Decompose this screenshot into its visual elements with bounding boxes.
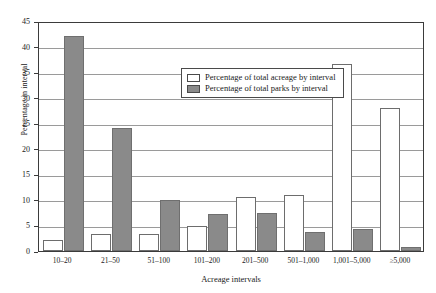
bar-acreage-2 <box>139 234 159 251</box>
legend-label-parks: Percentage of total parks by interval <box>205 84 328 93</box>
x-tick-label: 101–200 <box>183 256 231 265</box>
bar-parks-3 <box>208 214 228 251</box>
legend-label-acreage: Percentage of total acreage by interval <box>205 73 336 82</box>
bar-parks-6 <box>353 229 373 251</box>
bar-acreage-4 <box>236 197 256 251</box>
x-axis-title: Acreage intervals <box>38 274 424 284</box>
y-tick-label: 35 <box>0 69 30 77</box>
y-tick-label: 45 <box>0 18 30 26</box>
y-tick-label: 5 <box>0 222 30 230</box>
legend-item-parks: Percentage of total parks by interval <box>187 83 336 94</box>
y-tick-mark <box>34 252 38 253</box>
x-tick-label: 10–20 <box>38 256 86 265</box>
y-tick-label: 15 <box>0 171 30 179</box>
y-tick-mark <box>34 73 38 74</box>
y-tick-mark <box>34 149 38 150</box>
x-tick-label: 201–500 <box>231 256 279 265</box>
plot-area: Percentage of total acreage by interval … <box>38 22 424 252</box>
y-tick-mark <box>34 98 38 99</box>
x-tick-label: 21–50 <box>86 256 134 265</box>
x-tick-label: ≥5,000 <box>376 256 424 265</box>
x-tick-label: 501–1,000 <box>279 256 327 265</box>
x-axis-tick-labels: 10–2021–5051–100101–200201–500501–1,0001… <box>38 256 424 268</box>
y-tick-label: 20 <box>0 146 30 154</box>
y-tick-label: 0 <box>0 248 30 256</box>
bar-parks-1 <box>112 128 132 251</box>
y-tick-label: 30 <box>0 95 30 103</box>
bar-parks-2 <box>160 200 180 251</box>
bar-parks-0 <box>64 36 84 251</box>
bar-parks-7 <box>401 247 421 251</box>
gray-swatch-icon <box>187 85 200 93</box>
y-tick-mark <box>34 124 38 125</box>
legend-item-acreage: Percentage of total acreage by interval <box>187 72 336 83</box>
y-tick-mark <box>34 22 38 23</box>
bar-acreage-0 <box>43 240 63 251</box>
bar-acreage-5 <box>284 195 304 251</box>
x-tick-label: 1,001–5,000 <box>328 256 376 265</box>
bar-acreage-7 <box>380 108 400 251</box>
bar-acreage-1 <box>91 234 111 251</box>
y-tick-mark <box>34 47 38 48</box>
chart-legend: Percentage of total acreage by interval … <box>181 68 344 98</box>
y-tick-mark <box>34 226 38 227</box>
white-swatch-icon <box>187 74 200 82</box>
y-tick-mark <box>34 175 38 176</box>
x-tick-label: 51–100 <box>135 256 183 265</box>
y-tick-mark <box>34 200 38 201</box>
y-tick-label: 40 <box>0 44 30 52</box>
y-axis-tick-labels: 051015202530354045 <box>0 22 34 252</box>
bar-acreage-3 <box>187 226 207 251</box>
bar-parks-5 <box>305 232 325 251</box>
bars-layer <box>39 23 423 251</box>
bar-chart: Percentage in interval 05101520253035404… <box>0 0 436 293</box>
y-tick-label: 25 <box>0 120 30 128</box>
bar-parks-4 <box>257 213 277 251</box>
y-tick-label: 10 <box>0 197 30 205</box>
